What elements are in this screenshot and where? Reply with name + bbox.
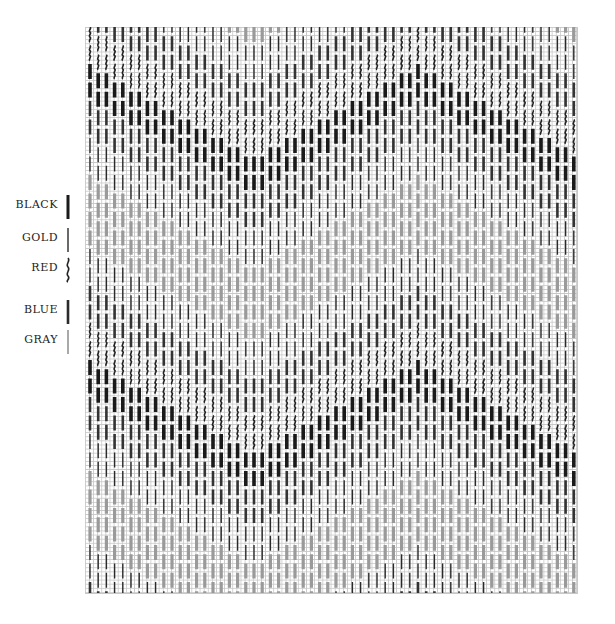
gray-stitch-icon [64, 329, 72, 355]
legend-item-gold: GOLD [0, 223, 80, 253]
legend-item-blue: BLUE [0, 295, 80, 325]
legend-item-gray: GRAY [0, 325, 80, 355]
blue-stitch-icon [64, 299, 72, 325]
legend-label: GOLD [22, 231, 58, 244]
legend-label: BLUE [24, 303, 58, 316]
legend-label: GRAY [24, 333, 58, 346]
legend-label: BLACK [16, 198, 58, 211]
legend-label: RED [31, 261, 58, 274]
stitch-chart-grid [85, 27, 578, 594]
legend-item-red: RED [0, 253, 80, 283]
red-stitch-icon [64, 257, 72, 283]
legend-item-black: BLACK [0, 190, 80, 220]
gold-stitch-icon [64, 227, 72, 253]
stitch-pattern [85, 27, 577, 593]
black-stitch-icon [64, 194, 72, 220]
